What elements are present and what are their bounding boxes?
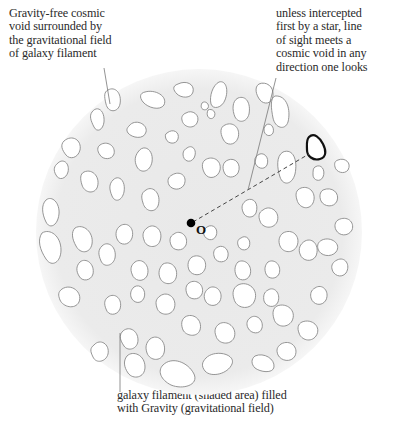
origin-dot xyxy=(187,219,196,228)
cosmic-void-diagram xyxy=(0,0,396,422)
origin-label: O xyxy=(196,222,206,238)
